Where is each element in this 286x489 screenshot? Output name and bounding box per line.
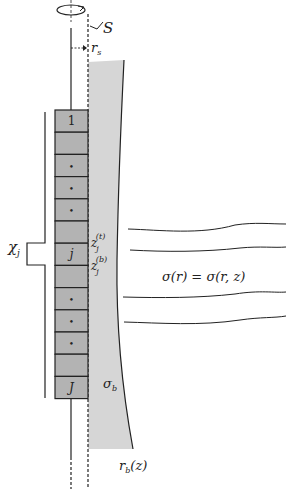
block-label: • [69, 184, 74, 194]
block-label: • [69, 339, 74, 349]
label-s: S [103, 19, 113, 37]
sensor-block [55, 221, 88, 243]
borehole-diagram: S rs 1•••j•••J χj zj(t) zj(b) σ(r) = σ(r… [0, 0, 286, 489]
block-label: • [69, 162, 74, 172]
chi-bracket [27, 112, 45, 398]
block-label: 1 [68, 114, 76, 128]
label-rb: rb(z) [119, 458, 147, 475]
label-sigma-equation: σ(r) = σ(r, z) [162, 269, 245, 284]
sensor-block [55, 132, 88, 154]
block-stack: 1•••j•••J [55, 110, 88, 399]
sensor-block [55, 265, 88, 287]
label-chi: χj [7, 238, 20, 258]
block-label: • [69, 295, 74, 305]
label-rs: rs [91, 40, 101, 57]
s-pointer [90, 22, 103, 29]
block-label: • [69, 206, 74, 216]
sensor-block [55, 354, 88, 376]
block-label: • [69, 317, 74, 327]
